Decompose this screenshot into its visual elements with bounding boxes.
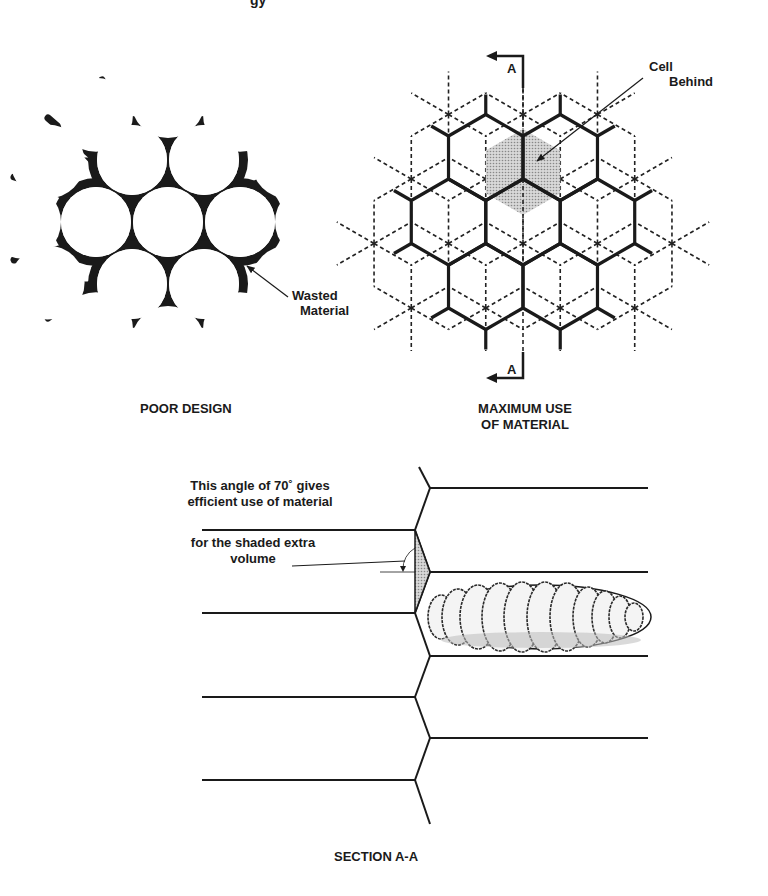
cell-base-wall [415,738,430,780]
dashed-spoke [672,244,709,266]
dashed-spoke [411,93,448,115]
hex-wall-stub [394,191,411,201]
dashed-spoke [449,287,486,309]
dashed-spoke [560,222,597,244]
dashed-spoke [597,158,634,180]
cell-base-wall [415,697,430,738]
wall-top-stub [419,467,430,488]
dashed-spoke [597,287,634,309]
angle-note: This angle of 70˚ gives efficient use of… [150,478,370,510]
wasted-material-label: Wasted Material [292,288,349,318]
dashed-spoke [486,222,523,244]
cell-label-line2: Behind [649,74,713,89]
dashed-spoke [560,158,597,180]
dashed-spoke [486,93,523,115]
dashed-spoke [635,222,672,244]
poor-design-caption: POOR DESIGN [140,401,232,417]
cell-behind-label: Cell Behind [649,59,713,89]
dashed-spoke [411,222,448,244]
wasted-label-line1: Wasted [292,288,349,303]
dashed-spoke [635,287,672,309]
diagram-canvas [0,0,768,896]
dashed-spoke [560,93,597,115]
dashed-spoke [486,287,523,309]
dashed-spoke [449,158,486,180]
hex-wall-stub [394,244,411,254]
dashed-spoke [374,308,411,330]
dashed-spoke [337,244,374,266]
dashed-spoke [449,93,486,115]
hex-wall-stub [431,308,448,318]
dashed-spoke [449,222,486,244]
cell-label-line1: Cell [649,59,713,74]
section-marker-top [486,51,523,88]
wasted-label-line2: Material [292,303,349,318]
dashed-spoke [597,222,634,244]
larva-figure [428,582,651,652]
section-letter-bottom: A [507,362,516,377]
section-a-a-figure [202,467,651,824]
shaded-note-line2: volume [163,551,343,567]
dashed-spoke [560,287,597,309]
shaded-note-line1: for the shaded extra [163,535,343,551]
maximum-use-line1: MAXIMUM USE [460,401,590,417]
section-letter-top: A [507,61,516,76]
cell-base-wall [415,656,430,697]
larva-shading [441,632,641,648]
larva-segment [625,603,643,631]
hex-wall-stub [635,191,652,201]
angle-note-line1: This angle of 70˚ gives [150,478,370,494]
hex-wall-stub [431,126,448,136]
dashed-spoke [523,222,560,244]
cell-base-wall [415,780,430,824]
dashed-spoke [411,158,448,180]
maximum-use-caption: MAXIMUM USE OF MATERIAL [460,401,590,433]
dashed-spoke [523,287,560,309]
hex-wall-stub [597,126,614,136]
shaded-extra-volume [415,530,430,613]
angle-arrow-icon [400,566,406,572]
hex-wall-stub [597,308,614,318]
dashed-spoke [672,222,709,244]
maximum-use-line2: OF MATERIAL [460,417,590,433]
section-marker-bottom [486,352,523,383]
section-caption: SECTION A-A [334,849,418,865]
dashed-spoke [374,158,411,180]
dashed-spoke [523,93,560,115]
dashed-spoke [411,287,448,309]
dashed-spoke [597,93,634,115]
dashed-spoke [374,287,411,309]
cell-base-wall [415,488,430,530]
dashed-spoke [635,158,672,180]
angle-note-line2: efficient use of material [150,494,370,510]
dashed-spoke [374,222,411,244]
poor-design-figure [0,64,349,380]
hex-wall-stub [635,244,652,254]
shaded-volume-note: for the shaded extra volume [163,535,343,567]
maximum-use-figure [337,72,709,353]
dashed-spoke [635,308,672,330]
